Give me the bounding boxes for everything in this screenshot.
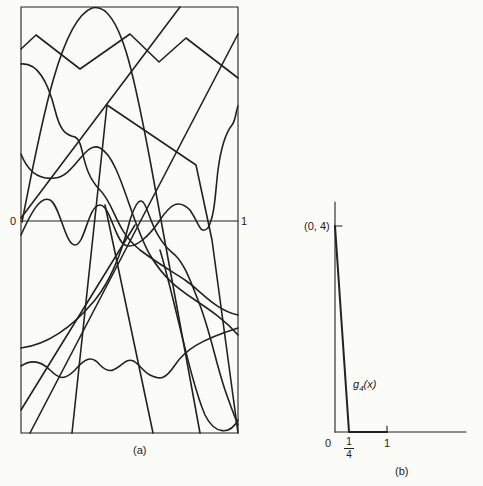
panel-a-caption: (a)	[133, 445, 146, 456]
curve-zigzag	[21, 34, 238, 78]
curve-tent	[72, 105, 238, 433]
curve-line-2	[30, 34, 238, 433]
curve-g4	[335, 226, 387, 432]
panel-b-one-label: 1	[384, 438, 390, 449]
quarter-numerator: 1	[346, 436, 352, 447]
curve-descending-wiggle	[21, 64, 238, 315]
curve-lower-wave	[21, 328, 238, 378]
panel-b-origin-label: 0	[325, 438, 331, 449]
panel-b-quarter-label: 14	[344, 437, 354, 460]
figure-canvas	[0, 0, 483, 486]
panel-b-peak-label: (0, 4)	[304, 221, 330, 232]
panel-b-caption: (b)	[395, 466, 408, 477]
panel-a-axis-zero-label: 0	[10, 216, 16, 227]
panel-b-curve-label: g4(x)	[353, 379, 376, 393]
curve-label-arg: (x)	[364, 378, 377, 390]
panel-a-curves	[21, 7, 238, 433]
panel-a-axis-one-label: 1	[241, 216, 247, 227]
quarter-denominator: 4	[346, 449, 352, 460]
